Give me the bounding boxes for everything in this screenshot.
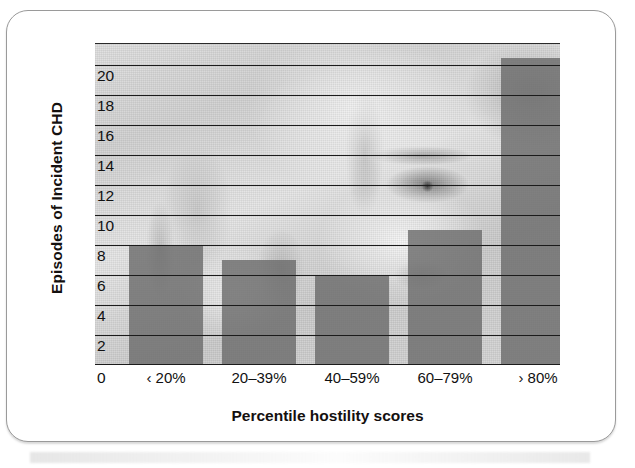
bar (315, 275, 389, 365)
y-axis-title: Episodes of Incident CHD (48, 58, 66, 338)
bar (222, 260, 296, 365)
x-tick-label: 20–39% (210, 369, 308, 386)
bars-layer (95, 43, 560, 365)
bar (129, 245, 203, 365)
x-tick-label: › 80% (489, 369, 587, 386)
x-axis-tick-labels: ‹ 20%20–39%40–59%60–79%› 80% (95, 369, 560, 393)
x-tick-label: ‹ 20% (117, 369, 215, 386)
figure-card: Episodes of Incident CHD 246810121416182… (6, 10, 616, 442)
x-tick-label: 60–79% (396, 369, 494, 386)
plot-area: 2468101214161820 (95, 43, 560, 365)
x-axis-title: Percentile hostility scores (95, 407, 560, 425)
bar (408, 230, 482, 365)
x-tick-label: 40–59% (303, 369, 401, 386)
page-edge-shadow (30, 452, 590, 463)
bar (501, 58, 560, 365)
